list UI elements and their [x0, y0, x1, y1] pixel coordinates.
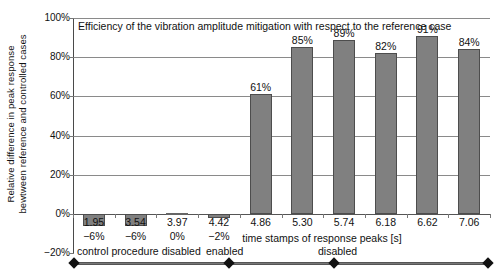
bar-value-label: 61%: [250, 82, 271, 93]
bar: [416, 36, 438, 214]
chart-figure: Relative difference in peak response bew…: [0, 0, 503, 273]
x-axis-tick-label: 6.18: [376, 217, 396, 228]
phase-label: control procedure disabled: [77, 245, 201, 257]
phase-label: enabled: [206, 245, 243, 257]
y-axis-tick: [69, 136, 74, 137]
phase-marker-diamond: [68, 257, 79, 268]
phase-bracket-line: [74, 262, 229, 265]
bar-value-label: 0%: [170, 231, 185, 242]
y-axis-title-line-1: Relative difference in peak response: [5, 34, 17, 213]
bar: [291, 47, 313, 213]
bar: [166, 213, 188, 215]
y-axis-tick-labels: 100%80%60%40%20%0%−20%: [30, 0, 70, 273]
y-axis-tick-label: 0%: [32, 209, 70, 219]
x-axis-tick: [448, 214, 449, 218]
bar-value-label: 85%: [292, 35, 313, 46]
x-axis-tick-label: 7.06: [459, 217, 479, 228]
x-axis-tick-label: 3.54: [125, 217, 145, 228]
bar-value-label: 89%: [334, 28, 355, 39]
y-axis-tick-label: 40%: [32, 131, 70, 141]
x-axis-tick: [73, 214, 74, 218]
x-axis-tick-label: 5.74: [334, 217, 354, 228]
x-axis-tick: [490, 214, 491, 218]
x-axis-tick-label: 4.42: [209, 217, 229, 228]
phase-label: disabled: [318, 245, 357, 257]
y-axis-title: Relative difference in peak response bew…: [0, 0, 34, 248]
bar-value-label: 84%: [459, 37, 480, 48]
phase-marker-diamond: [223, 257, 234, 268]
bar-value-label: 91%: [417, 24, 438, 35]
phase-bracket: [0, 255, 503, 273]
x-axis-tick: [365, 214, 366, 218]
x-axis-tick: [240, 214, 241, 218]
y-axis-tick: [69, 18, 74, 19]
x-axis-title: time stamps of response peaks [s]: [242, 232, 401, 244]
y-axis-tick-label: 100%: [32, 13, 70, 23]
x-axis-tick-label: 5.30: [292, 217, 312, 228]
bar: [250, 94, 272, 213]
bar: [458, 49, 480, 214]
x-axis-tick: [407, 214, 408, 218]
phase-bracket-line: [334, 262, 488, 265]
y-axis-tick-label: 60%: [32, 91, 70, 101]
x-axis-tick-label: 6.62: [417, 217, 437, 228]
bar-value-label: −2%: [208, 231, 229, 242]
gridline: [73, 18, 490, 19]
x-axis-tick: [198, 214, 199, 218]
x-axis-tick-label: 3.97: [167, 217, 187, 228]
x-axis-tick: [115, 214, 116, 218]
bar: [333, 40, 355, 214]
y-axis-tick-label: 80%: [32, 52, 70, 62]
y-axis-tick: [69, 57, 74, 58]
y-axis-tick: [69, 253, 74, 254]
x-axis-tick: [323, 214, 324, 218]
x-axis-tick: [282, 214, 283, 218]
bar: [375, 53, 397, 214]
x-axis-tick: [156, 214, 157, 218]
bar-value-label: 82%: [375, 41, 396, 52]
bar-value-label: −6%: [125, 231, 146, 242]
phase-bracket-line: [229, 262, 334, 265]
y-axis-tick-label: 20%: [32, 170, 70, 180]
y-axis-tick: [69, 96, 74, 97]
phase-marker-diamond: [328, 257, 339, 268]
y-axis-tick: [69, 175, 74, 176]
x-axis-tick-label: 4.86: [250, 217, 270, 228]
x-axis-tick-label: 1.95: [84, 217, 104, 228]
phase-marker-diamond: [482, 257, 493, 268]
y-axis-title-line-2: bewtween reference and controlled cases: [17, 34, 29, 213]
bar-value-label: −6%: [83, 231, 104, 242]
